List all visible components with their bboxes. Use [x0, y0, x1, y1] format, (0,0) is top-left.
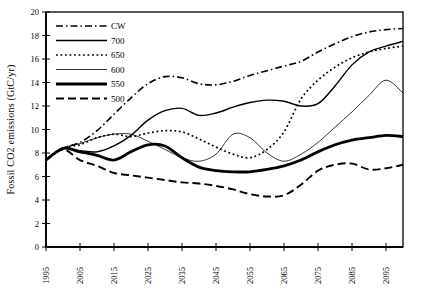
y-tick-label: 18 — [31, 31, 40, 41]
x-tick-label: 2035 — [177, 267, 187, 284]
x-tick-label: 2055 — [245, 267, 255, 284]
x-tick-label: 2085 — [347, 267, 357, 284]
y-tick-label: 12 — [31, 101, 40, 111]
legend-label: CW — [111, 21, 126, 31]
x-tick-label: 2015 — [109, 267, 119, 284]
y-tick-label: 6 — [35, 172, 39, 182]
y-tick-label: 14 — [31, 78, 40, 88]
legend-item-550: 550 — [56, 79, 125, 89]
y-tick-label: 16 — [31, 54, 40, 64]
legend-label: 550 — [111, 79, 125, 89]
y-tick-label: 10 — [31, 125, 40, 135]
y-tick-label: 2 — [35, 219, 39, 229]
x-axis-ticks: 1995200520152025203520452055206520752085… — [41, 243, 391, 284]
legend-label: 650 — [111, 50, 125, 60]
legend-item-700: 700 — [56, 36, 125, 46]
legend-label: 500 — [111, 94, 125, 104]
y-tick-label: 8 — [35, 148, 39, 158]
x-tick-label: 1995 — [41, 267, 51, 284]
x-tick-label: 2005 — [75, 267, 85, 284]
legend-item-500: 500 — [56, 94, 125, 104]
series-line-700 — [46, 41, 403, 160]
legend-item-650: 650 — [56, 50, 125, 60]
legend: CW700650600550500 — [56, 21, 126, 104]
x-tick-label: 2045 — [211, 267, 221, 284]
y-tick-label: 20 — [31, 7, 40, 17]
emissions-chart-svg: 0246810121416182019952005201520252035204… — [0, 0, 422, 293]
x-tick-label: 2065 — [279, 267, 289, 284]
legend-label: 600 — [111, 65, 125, 75]
emissions-chart: Fossil CO2 emissions (GtC/yr) 0246810121… — [0, 0, 422, 293]
y-tick-label: 4 — [35, 195, 40, 205]
legend-item-600: 600 — [56, 65, 125, 75]
x-tick-label: 2095 — [381, 267, 391, 284]
legend-label: 700 — [111, 36, 125, 46]
x-tick-label: 2025 — [143, 267, 153, 284]
x-tick-label: 2075 — [313, 267, 323, 284]
y-axis-ticks: 02468101214161820 — [31, 7, 51, 252]
series-lines — [46, 28, 403, 196]
legend-item-CW: CW — [56, 21, 126, 31]
y-tick-label: 0 — [35, 242, 39, 252]
series-line-600 — [46, 80, 403, 161]
